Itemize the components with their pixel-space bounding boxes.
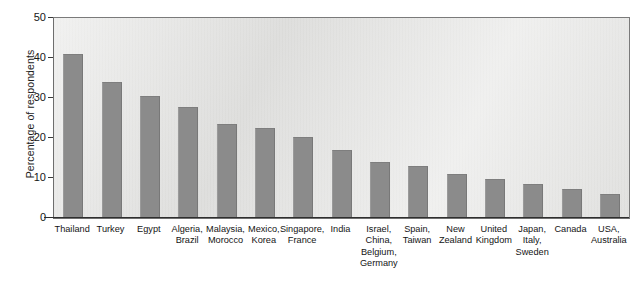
bar [255, 128, 275, 218]
x-axis-category-label-line: Belgium, [354, 247, 404, 258]
bar [140, 96, 160, 218]
bar-series [54, 18, 629, 218]
bar [485, 179, 505, 218]
x-axis-category-label: USA,Australia [584, 224, 634, 247]
bar [523, 184, 543, 218]
bar [370, 162, 390, 218]
bar [332, 150, 352, 218]
bar [63, 54, 83, 218]
bar-chart-figure: Percentage of respondents 01020304050 Th… [0, 0, 640, 287]
y-axis-tick-label: 30 [34, 90, 46, 104]
bar [447, 174, 467, 218]
x-axis-category-label-line: USA, [584, 224, 634, 235]
x-axis-line [44, 217, 629, 218]
x-axis-category-label-line: Germany [354, 258, 404, 269]
bar [562, 189, 582, 218]
y-axis-tick-label: 20 [34, 130, 46, 144]
plot-area [53, 17, 630, 219]
x-axis-category-label-line: Italy, [507, 235, 557, 246]
bar [217, 124, 237, 218]
x-axis-category-label-line: Australia [584, 235, 634, 246]
y-axis-tick-label: 40 [34, 50, 46, 64]
bar [600, 194, 620, 218]
bar [178, 107, 198, 218]
y-axis-tick-label: 50 [34, 10, 46, 24]
bar [408, 166, 428, 218]
x-axis-category-label-line: France [277, 235, 327, 246]
bar [293, 137, 313, 218]
y-axis-tick-label: 10 [34, 170, 46, 184]
x-axis-category-label-line: Sweden [507, 247, 557, 258]
bar [102, 82, 122, 218]
y-axis: 01020304050 [0, 0, 53, 287]
x-axis-tick-labels: ThailandTurkeyEgyptAlgeria,BrazilMalaysi… [53, 224, 628, 284]
